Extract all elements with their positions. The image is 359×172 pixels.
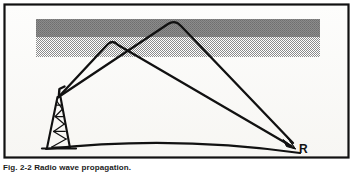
receiver-label: R bbox=[299, 142, 308, 156]
ionosphere-upper-layer bbox=[36, 19, 320, 37]
figure-container: R Fig. 2-2 Radio wave propagation. bbox=[0, 0, 359, 172]
propagation-diagram: R bbox=[0, 0, 359, 172]
figure-caption-strip: Fig. 2-2 Radio wave propagation. bbox=[0, 163, 359, 172]
figure-caption: Fig. 2-2 Radio wave propagation. bbox=[3, 163, 131, 172]
ionosphere-lower-layer bbox=[36, 37, 320, 57]
